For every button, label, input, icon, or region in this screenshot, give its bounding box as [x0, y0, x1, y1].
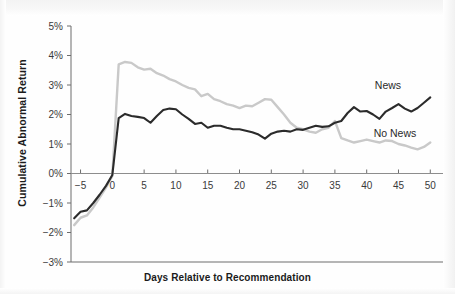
y-axis-tick-label: −3%: [43, 257, 63, 268]
y-axis-tick-label: 1%: [49, 139, 64, 150]
x-axis-tick-label: 50: [425, 180, 437, 191]
y-axis-tick-label: 4%: [49, 50, 64, 61]
y-axis-tick-label: −2%: [43, 227, 63, 238]
y-axis-tick-label: 5%: [49, 21, 64, 32]
x-axis-tick-label: −5: [75, 180, 87, 191]
y-axis-tick-label: 2%: [49, 109, 64, 120]
x-axis-tick-label: 45: [393, 180, 405, 191]
series-label-no-news: No News: [374, 127, 417, 139]
x-axis-tick-label: 40: [361, 180, 373, 191]
x-axis-tick-group: −505101520253035404550: [75, 170, 436, 191]
x-axis-tick-label: 10: [170, 180, 182, 191]
y-axis-tick-label: −1%: [43, 198, 63, 209]
x-axis-tick-label: 20: [234, 180, 246, 191]
series-line-news: [74, 97, 430, 218]
x-axis-tick-label: 15: [202, 180, 214, 191]
chart-figure: Cumulative Abnormal Return Days Relative…: [0, 0, 455, 294]
y-axis-tick-label: 0%: [49, 168, 64, 179]
x-axis-tick-label: 5: [141, 180, 147, 191]
x-axis-tick-label: 30: [298, 180, 310, 191]
x-axis-tick-label: 35: [329, 180, 341, 191]
y-axis-tick-label: 3%: [49, 80, 64, 91]
x-axis-tick-label: 25: [266, 180, 278, 191]
series-label-news: News: [375, 79, 401, 91]
line-chart-plot: −3%−2%−1%0%1%2%3%4%5% −50510152025303540…: [0, 0, 455, 294]
y-axis-tick-group: −3%−2%−1%0%1%2%3%4%5%: [43, 21, 71, 268]
